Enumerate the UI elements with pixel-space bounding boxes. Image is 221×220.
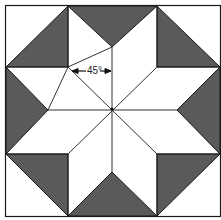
quilt-block-diagram <box>0 0 221 220</box>
angle-label: 45° <box>87 66 102 76</box>
corner-triangle-top-left <box>6 6 68 67</box>
side-triangle-top <box>68 6 157 47</box>
side-triangle-left <box>6 67 48 154</box>
side-triangle-bottom <box>68 172 157 216</box>
side-triangle-right <box>177 67 220 154</box>
center-point <box>110 107 113 110</box>
corner-triangle-bottom-left <box>6 154 68 216</box>
corner-triangle-bottom-right <box>157 154 220 216</box>
corner-triangle-top-right <box>157 6 220 67</box>
